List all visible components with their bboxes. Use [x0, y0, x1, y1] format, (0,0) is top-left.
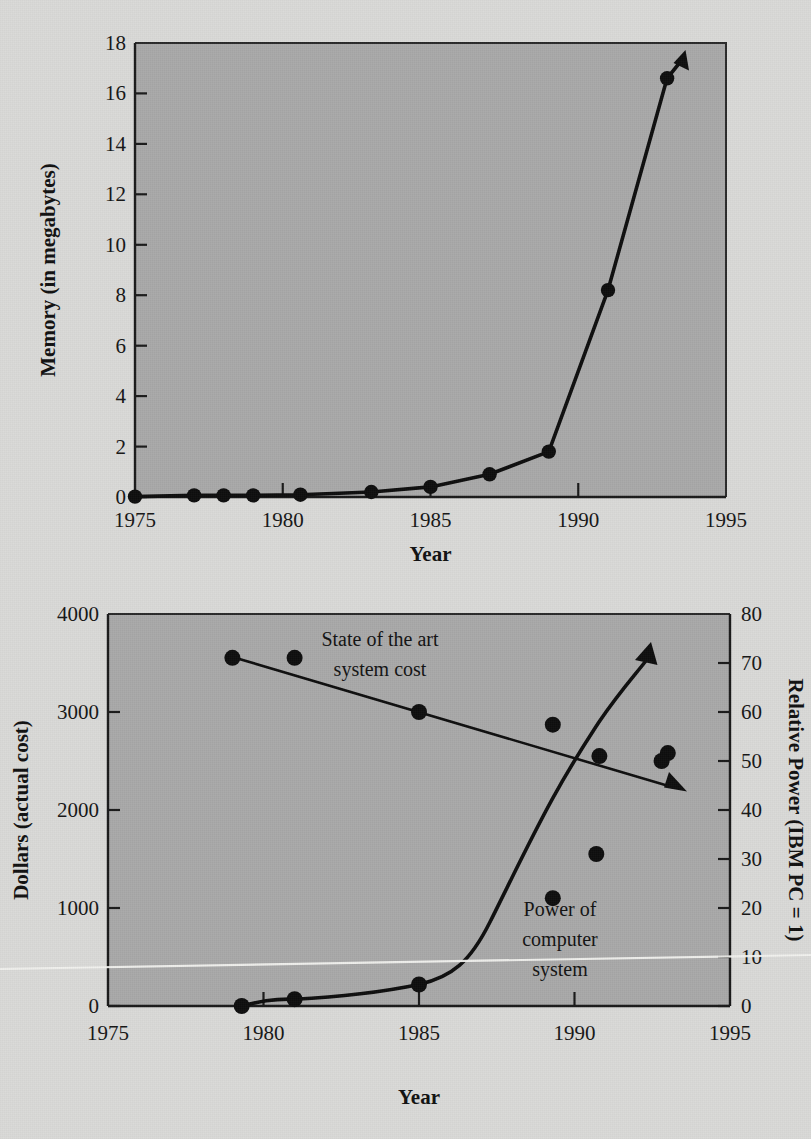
- x-tick-label: 1990: [554, 1021, 596, 1045]
- data-point: [224, 650, 240, 666]
- data-point: [542, 444, 556, 458]
- left-y-tick-label: 3000: [57, 700, 99, 724]
- y-tick-label: 12: [105, 182, 126, 206]
- power-annotation-line-2: computer: [522, 928, 598, 951]
- data-point: [293, 488, 307, 502]
- right-y-tick-label: 60: [741, 700, 762, 724]
- data-point: [423, 480, 437, 494]
- left-y-tick-label: 1000: [57, 896, 99, 920]
- data-point: [660, 71, 674, 85]
- data-point: [128, 489, 142, 503]
- data-point: [411, 704, 427, 720]
- x-tick-label: 1975: [87, 1021, 129, 1045]
- plot-area-background: [135, 43, 726, 497]
- data-point: [246, 488, 260, 502]
- power-annotation-line-1: Power of: [524, 898, 597, 920]
- data-point: [591, 748, 607, 764]
- x-tick-label: 1985: [398, 1021, 440, 1045]
- y-tick-label: 10: [105, 233, 126, 257]
- x-tick-label: 1995: [709, 1021, 751, 1045]
- cost-annotation-line-1: State of the art: [321, 628, 439, 650]
- x-tick-label: 1985: [410, 508, 452, 532]
- cost-power-chart-svg: 0 1000 2000 3000 4000 0 10 20 30 40 50 6…: [0, 570, 811, 1139]
- y-tick-label: 16: [105, 81, 126, 105]
- right-y-axis-title: Relative Power (IBM PC = 1): [784, 679, 808, 942]
- data-point: [364, 485, 378, 499]
- y-tick-label: 8: [116, 283, 127, 307]
- y-axis-title: Memory (in megabytes): [36, 163, 60, 376]
- x-tick-label: 1995: [705, 508, 747, 532]
- y-tick-label: 6: [116, 334, 127, 358]
- x-axis-title: Year: [398, 1085, 440, 1109]
- data-point: [187, 488, 201, 502]
- data-point: [588, 846, 604, 862]
- left-y-tick-label: 2000: [57, 798, 99, 822]
- memory-chart-svg: 0 2 4 6 8 10 12 14 16 18 1975 1980 1985 …: [0, 0, 811, 570]
- right-y-tick-label: 30: [741, 847, 762, 871]
- y-tick-label: 2: [116, 435, 127, 459]
- right-y-tick-label: 40: [741, 798, 762, 822]
- cost-annotation-line-2: system cost: [334, 658, 427, 681]
- left-y-tick-label: 4000: [57, 602, 99, 626]
- x-tick-label: 1980: [243, 1021, 285, 1045]
- data-point: [545, 717, 561, 733]
- y-axis-tick-labels: 0 2 4 6 8 10 12 14 16 18: [105, 31, 127, 509]
- cost-and-power-chart: 0 1000 2000 3000 4000 0 10 20 30 40 50 6…: [0, 570, 811, 1139]
- data-point: [234, 998, 250, 1014]
- y-tick-label: 0: [116, 485, 127, 509]
- data-point: [216, 488, 230, 502]
- right-y-tick-label: 50: [741, 749, 762, 773]
- x-tick-label: 1990: [557, 508, 599, 532]
- y-tick-label: 14: [105, 132, 127, 156]
- left-y-axis-title: Dollars (actual cost): [9, 720, 33, 900]
- x-tick-label: 1980: [262, 508, 304, 532]
- x-axis-tick-labels: 1975 1980 1985 1990 1995: [87, 1021, 751, 1045]
- power-annotation-line-3: system: [532, 958, 588, 981]
- right-y-tick-label: 20: [741, 896, 762, 920]
- right-y-tick-label: 80: [741, 602, 762, 626]
- x-axis-title: Year: [410, 542, 452, 566]
- y-tick-label: 4: [116, 384, 127, 408]
- x-tick-label: 1975: [114, 508, 156, 532]
- x-axis-tick-labels: 1975 1980 1985 1990 1995: [114, 508, 747, 532]
- data-point: [601, 283, 615, 297]
- y-tick-label: 18: [105, 31, 126, 55]
- left-y-axis-tick-labels: 0 1000 2000 3000 4000: [57, 602, 99, 1018]
- left-y-tick-label: 0: [89, 994, 100, 1018]
- right-y-tick-label: 70: [741, 651, 762, 675]
- data-point: [287, 991, 303, 1007]
- data-point: [482, 467, 496, 481]
- data-point: [287, 650, 303, 666]
- memory-growth-chart: 0 2 4 6 8 10 12 14 16 18 1975 1980 1985 …: [0, 0, 811, 570]
- power-annotation: Power of computer system: [522, 898, 598, 981]
- data-point: [411, 977, 427, 993]
- data-point: [654, 753, 670, 769]
- right-y-tick-label: 0: [741, 994, 752, 1018]
